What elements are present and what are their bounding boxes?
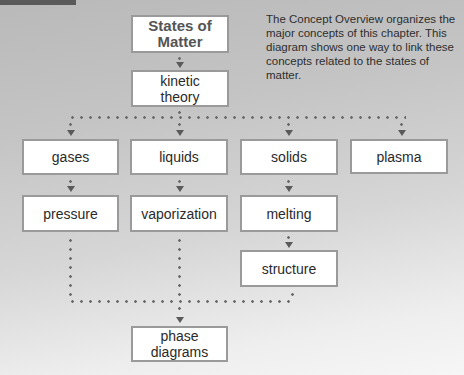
- node-kinetic-theory: kinetic theory: [131, 70, 229, 107]
- node-structure: structure: [240, 250, 338, 287]
- node-label: liquids: [159, 149, 199, 165]
- arrow-down-icon: [176, 130, 184, 136]
- connector-bus-liquids: [178, 120, 181, 129]
- arrow-down-icon: [67, 130, 75, 136]
- connector-bus-gases: [69, 120, 72, 129]
- connector-pressure-bus: [69, 236, 72, 302]
- node-label: structure: [262, 261, 316, 277]
- arrow-down-icon: [285, 186, 293, 192]
- node-states-of-matter: States of Matter: [131, 15, 229, 53]
- node-label: gases: [52, 149, 89, 165]
- arrow-down-icon: [285, 130, 293, 136]
- arrow-down-icon: [176, 186, 184, 192]
- node-label: plasma: [376, 149, 421, 165]
- node-vaporization: vaporization: [130, 195, 228, 232]
- page-edge-bar: [0, 0, 76, 5]
- node-solids: solids: [240, 139, 338, 175]
- node-gases: gases: [22, 139, 119, 175]
- arrow-down-icon: [176, 62, 184, 68]
- node-melting: melting: [240, 195, 338, 232]
- connector-bottom-bus: [68, 300, 296, 303]
- connector-liquids-vaporization: [178, 177, 181, 186]
- node-label: States of Matter: [145, 18, 215, 50]
- connector-solids-melting: [287, 177, 290, 186]
- node-liquids: liquids: [130, 139, 228, 175]
- arrow-down-icon: [398, 130, 406, 136]
- node-label: vaporization: [141, 206, 217, 222]
- connector-bus-phase: [178, 304, 181, 316]
- node-plasma: plasma: [350, 139, 448, 174]
- node-label: solids: [271, 149, 307, 165]
- connector-bus-plasma: [400, 120, 403, 129]
- connector-bus-solids: [287, 120, 290, 129]
- node-label: kinetic theory: [150, 73, 210, 105]
- node-label: pressure: [43, 206, 97, 222]
- arrow-down-icon: [285, 242, 293, 248]
- node-label: melting: [266, 206, 311, 222]
- connector-melting-structure: [287, 233, 290, 242]
- connector-top-bus: [68, 116, 406, 119]
- arrow-down-icon: [176, 317, 184, 323]
- node-pressure: pressure: [22, 195, 119, 232]
- concept-overview-note: The Concept Overview organizes the major…: [266, 12, 462, 82]
- connector-gases-pressure: [69, 177, 72, 186]
- node-phase-diagrams: phase diagrams: [131, 326, 228, 362]
- arrow-down-icon: [67, 186, 75, 192]
- connector-vaporization-bus: [178, 236, 181, 302]
- node-label: phase diagrams: [150, 328, 210, 360]
